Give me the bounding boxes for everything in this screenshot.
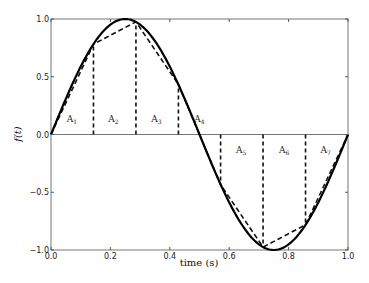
area-label-6: A6 [278,145,290,156]
y-tick-label: −1.0 [30,246,49,255]
area-label-5: A5 [235,145,247,156]
x-axis-label: time (s) [180,257,219,268]
area-label-7: A7 [320,145,332,156]
y-tick-label: 1.0 [36,15,49,24]
x-tick-label: 1.0 [342,252,355,261]
y-axis-label: f(t) [12,126,23,143]
area-label-4: A4 [193,114,205,125]
x-tick-label: 0.2 [104,252,117,261]
x-tick-label: 0.6 [223,252,236,261]
area-label-2: A2 [107,114,119,125]
area-label-1: A1 [66,114,77,125]
chart: 0.00.20.40.60.81.0−1.0−0.50.00.51.0 A1A2… [0,0,369,283]
y-tick-label: 0.0 [36,131,49,140]
y-tick-label: −0.5 [30,188,49,197]
x-tick-label: 0.8 [282,252,295,261]
y-tick-label: 0.5 [36,73,49,82]
x-tick-label: 0.4 [163,252,176,261]
area-label-3: A3 [150,114,162,125]
